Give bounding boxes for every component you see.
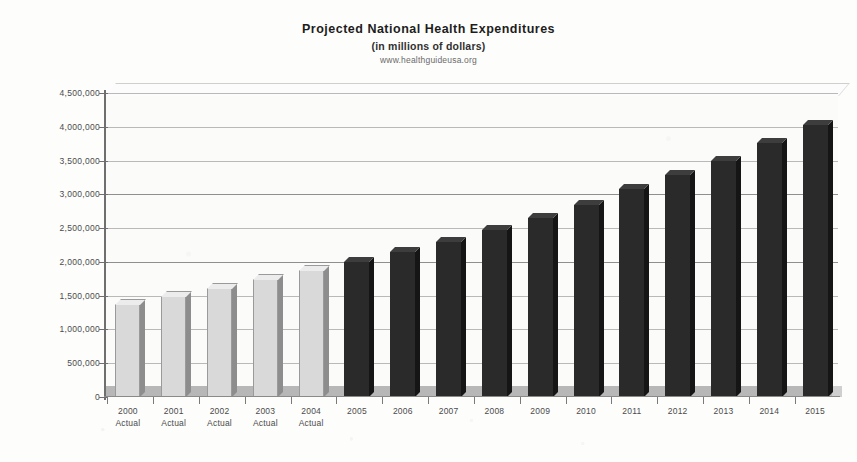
x-axis-ticks: 2000Actual2001Actual2002Actual2003Actual… [0, 0, 857, 462]
x-axis-label-sublabel: Actual [284, 418, 338, 428]
plot-wrapper: 0500,0001,000,0001,500,0002,000,0002,500… [0, 0, 857, 462]
x-tick-mark [795, 397, 796, 404]
x-axis-label-2015: 2015 [788, 406, 842, 416]
x-tick-mark [611, 397, 612, 404]
x-tick-mark [474, 397, 475, 404]
x-tick-mark [107, 397, 108, 404]
x-tick-mark [657, 397, 658, 404]
x-tick-mark [382, 397, 383, 404]
x-tick-mark [245, 397, 246, 404]
x-tick-mark [749, 397, 750, 404]
x-tick-mark [428, 397, 429, 404]
x-tick-mark [199, 397, 200, 404]
x-tick-mark [336, 397, 337, 404]
x-tick-mark [566, 397, 567, 404]
x-tick-mark [153, 397, 154, 404]
x-axis-label-year: 2015 [788, 406, 842, 416]
chart-root: Projected National Health Expenditures (… [0, 0, 857, 462]
x-tick-mark [291, 397, 292, 404]
x-tick-mark [520, 397, 521, 404]
x-tick-mark [703, 397, 704, 404]
